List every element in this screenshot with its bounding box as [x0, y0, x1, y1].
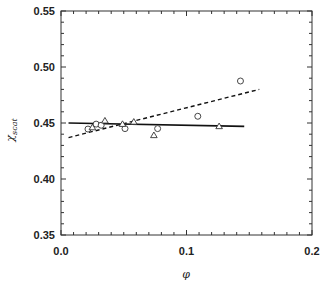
- y-tick-label: 0.45: [34, 117, 55, 129]
- y-tick-label: 0.55: [34, 5, 55, 17]
- x-tick-label: 0.1: [179, 245, 194, 257]
- triangle-marker: [151, 132, 158, 138]
- circle-marker: [237, 78, 243, 84]
- circle-marker: [195, 113, 201, 119]
- fit-lines: [69, 89, 260, 137]
- y-tick-label: 0.50: [34, 61, 55, 73]
- y-axis-label: χscat: [4, 118, 19, 143]
- dashed-fit-line: [69, 89, 260, 137]
- y-tick-label: 0.35: [34, 229, 55, 241]
- triangle-marker: [102, 117, 109, 123]
- data-markers: [85, 78, 243, 138]
- x-tick-labels: 0.00.10.2: [53, 245, 319, 257]
- x-axis-label: φ: [182, 268, 190, 281]
- x-tick-label: 0.0: [53, 245, 68, 257]
- y-axis-label-sub: scat: [10, 118, 19, 135]
- y-tick-labels: 0.350.400.450.500.55: [34, 5, 55, 241]
- circle-marker: [155, 126, 161, 132]
- y-tick-label: 0.40: [34, 173, 55, 185]
- scatter-chart: 0.00.10.2 0.350.400.450.500.55 φ χscat: [0, 0, 324, 287]
- x-tick-label: 0.2: [304, 245, 319, 257]
